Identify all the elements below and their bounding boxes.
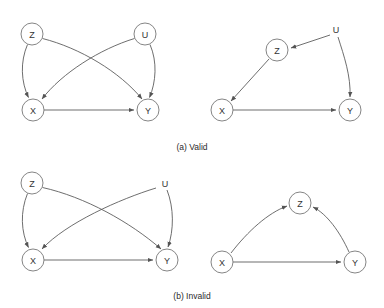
node-z-label: Z: [274, 46, 280, 56]
nodes-invalid-left: Z U X Y: [21, 172, 178, 271]
node-y[interactable]: Y: [137, 99, 159, 121]
node-u-label: U: [333, 25, 340, 35]
node-y-label: Y: [347, 106, 353, 116]
node-u[interactable]: U: [134, 23, 156, 45]
node-x-label: X: [219, 106, 225, 116]
edges-valid-left: [22, 39, 155, 111]
node-z[interactable]: Z: [21, 172, 43, 194]
edges-valid-right: [231, 35, 350, 110]
edge-x-to-z: [231, 206, 287, 253]
node-y[interactable]: Y: [339, 99, 361, 121]
node-z-label: Z: [29, 30, 35, 40]
edge-y-to-z: [313, 207, 349, 252]
node-x-label: X: [30, 256, 36, 266]
node-x-label: X: [219, 258, 225, 268]
caption-a: (a) Valid: [176, 142, 207, 152]
edge-u-to-y: [167, 190, 172, 247]
nodes-valid-left: Z U X Y: [21, 23, 159, 121]
node-z[interactable]: Z: [21, 23, 43, 45]
node-z[interactable]: Z: [266, 39, 288, 61]
panel-valid-left: Z U X Y: [21, 23, 159, 121]
edge-u-to-x: [42, 188, 156, 249]
node-y-label: Y: [164, 256, 170, 266]
node-u-label: U: [162, 179, 169, 189]
node-y-label: Y: [352, 258, 358, 268]
node-y-label: Y: [145, 106, 151, 116]
nodes-invalid-right: Z X Y: [211, 192, 366, 273]
edge-u-to-y: [150, 45, 156, 98]
edge-u-to-y: [338, 37, 350, 97]
panel-invalid-left: Z U X Y: [21, 172, 178, 271]
panel-invalid-right: Z X Y: [211, 192, 366, 273]
node-y[interactable]: Y: [156, 249, 178, 271]
edge-u-to-x: [42, 39, 135, 100]
causal-dag-figure: Z U X Y: [0, 0, 384, 308]
node-y[interactable]: Y: [344, 251, 366, 273]
node-z-label: Z: [297, 199, 303, 209]
figure-canvas: Z U X Y: [0, 0, 384, 308]
node-x-label: X: [30, 106, 36, 116]
edge-u-to-z: [291, 35, 330, 48]
edge-z-to-x: [22, 45, 28, 98]
node-u-label: U: [142, 30, 149, 40]
edges-invalid-left: [22, 188, 172, 261]
node-u-bare[interactable]: U: [162, 179, 169, 189]
caption-b: (b) Invalid: [173, 291, 211, 301]
node-u-bare[interactable]: U: [333, 25, 340, 35]
edge-z-to-y: [43, 188, 162, 250]
node-x[interactable]: X: [22, 99, 44, 121]
node-x[interactable]: X: [211, 99, 233, 121]
panel-valid-right: U Z X Y: [211, 25, 361, 121]
edge-z-to-y: [43, 39, 143, 100]
node-x[interactable]: X: [211, 251, 233, 273]
node-z[interactable]: Z: [289, 192, 311, 214]
edges-invalid-right: [231, 206, 349, 262]
node-x[interactable]: X: [22, 249, 44, 271]
node-z-label: Z: [29, 179, 35, 189]
edge-z-to-x: [231, 59, 269, 101]
edge-z-to-x: [22, 194, 28, 248]
